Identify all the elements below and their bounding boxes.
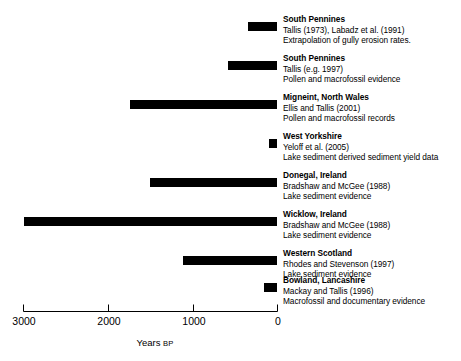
entry-reference: Mackay and Tallis (1996) xyxy=(283,286,461,297)
entry-title: Wicklow, Ireland xyxy=(283,209,461,220)
entry-label-group: South Pennines Tallis (1973), Labadz et … xyxy=(283,14,461,46)
x-tick-label-0: 0 xyxy=(248,315,308,327)
chart-row: Bowland, Lancashire Mackay and Tallis (1… xyxy=(0,275,461,315)
entry-label-group: Migneint, North Wales Ellis and Tallis (… xyxy=(283,92,461,124)
entry-reference: Bradshaw and McGee (1988) xyxy=(283,181,461,192)
entry-note: Lake sediment evidence xyxy=(283,230,461,241)
entry-title: Western Scotland xyxy=(283,248,461,259)
x-axis-title-suffix: BP xyxy=(163,339,174,348)
entry-note: Pollen and macrofossil evidence xyxy=(283,74,461,85)
x-axis-title-main: Years xyxy=(136,337,160,348)
entry-reference: Yeloff et al. (2005) xyxy=(283,142,461,153)
entry-reference: Rhodes and Stevenson (1997) xyxy=(283,259,461,270)
entry-title: West Yorkshire xyxy=(283,131,461,142)
range-bar xyxy=(130,100,277,109)
entry-note: Macrofossil and documentary evidence xyxy=(283,296,461,307)
entry-label-group: Wicklow, Ireland Bradshaw and McGee (198… xyxy=(283,209,461,241)
entry-reference: Tallis (1973), Labadz et al. (1991) xyxy=(283,25,461,36)
chart-row: South Pennines Tallis (e.g. 1997) Pollen… xyxy=(0,53,461,93)
entry-reference: Ellis and Tallis (2001) xyxy=(283,103,461,114)
range-bar xyxy=(264,283,277,292)
range-bar xyxy=(183,256,277,265)
range-bar xyxy=(24,217,277,226)
entry-reference: Tallis (e.g. 1997) xyxy=(283,64,461,75)
entry-label-group: Bowland, Lancashire Mackay and Tallis (1… xyxy=(283,275,461,307)
range-bar xyxy=(228,61,277,70)
entry-note: Pollen and macrofossil records xyxy=(283,113,461,124)
entry-title: South Pennines xyxy=(283,14,461,25)
entry-reference: Bradshaw and McGee (1988) xyxy=(283,220,461,231)
entry-note: Lake sediment derived sediment yield dat… xyxy=(283,152,461,163)
x-axis-title: Years BP xyxy=(85,337,225,348)
entry-label-group: West Yorkshire Yeloff et al. (2005) Lake… xyxy=(283,131,461,163)
x-tick-label-2000: 2000 xyxy=(79,315,139,327)
entry-label-group: Donegal, Ireland Bradshaw and McGee (198… xyxy=(283,170,461,202)
timeline-chart: South Pennines Tallis (1973), Labadz et … xyxy=(0,0,461,361)
chart-row: West Yorkshire Yeloff et al. (2005) Lake… xyxy=(0,131,461,171)
range-bar xyxy=(150,178,277,187)
chart-row: South Pennines Tallis (1973), Labadz et … xyxy=(0,14,461,54)
entry-note: Extrapolation of gully erosion rates. xyxy=(283,35,461,46)
entry-title: Bowland, Lancashire xyxy=(283,275,461,286)
chart-row: Migneint, North Wales Ellis and Tallis (… xyxy=(0,92,461,132)
chart-row: Donegal, Ireland Bradshaw and McGee (198… xyxy=(0,170,461,210)
x-tick-label-1000: 1000 xyxy=(164,315,224,327)
entry-label-group: South Pennines Tallis (e.g. 1997) Pollen… xyxy=(283,53,461,85)
entry-title: South Pennines xyxy=(283,53,461,64)
range-bar xyxy=(248,22,277,31)
x-tick-label-3000: 3000 xyxy=(0,315,54,327)
chart-row: Wicklow, Ireland Bradshaw and McGee (198… xyxy=(0,209,461,249)
range-bar xyxy=(269,139,277,148)
entry-title: Donegal, Ireland xyxy=(283,170,461,181)
entry-title: Migneint, North Wales xyxy=(283,92,461,103)
entry-note: Lake sediment evidence xyxy=(283,191,461,202)
